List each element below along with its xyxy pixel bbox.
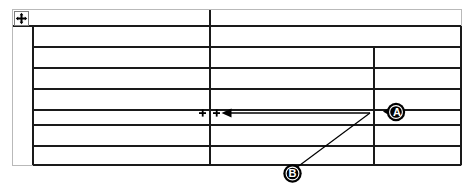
- tick-left-v: [202, 110, 204, 117]
- tick-right-v: [216, 110, 218, 117]
- callout-b-leader-line: [296, 113, 370, 168]
- callout-b[interactable]: B: [283, 164, 302, 183]
- column-boundary-ticks: [199, 110, 220, 117]
- column-width-arrow: [222, 109, 371, 118]
- callout-a[interactable]: A: [383, 102, 407, 122]
- circle-marker-icon: [283, 164, 302, 183]
- annotation-layer: [0, 0, 471, 193]
- speech-bubble-icon: [383, 102, 407, 122]
- screenshot-canvas: A B: [0, 0, 471, 193]
